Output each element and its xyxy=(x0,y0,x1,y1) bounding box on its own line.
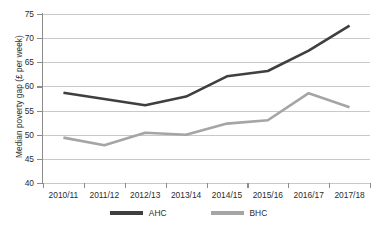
legend-swatch-ahc xyxy=(110,211,143,214)
legend-label: BHC xyxy=(250,208,268,218)
legend-item-ahc[interactable]: AHC xyxy=(110,208,167,218)
legend-swatch-bhc xyxy=(211,211,244,214)
series-line-bhc xyxy=(63,93,349,145)
series-layer xyxy=(0,0,377,228)
chart-legend: AHCBHC xyxy=(0,208,377,218)
line-chart: Median poverty gap (£ per week) 40455055… xyxy=(0,0,377,228)
legend-item-bhc[interactable]: BHC xyxy=(211,208,268,218)
legend-label: AHC xyxy=(149,208,167,218)
